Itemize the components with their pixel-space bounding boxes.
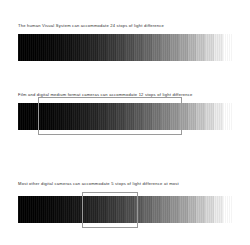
gradient-step bbox=[72, 103, 81, 130]
gradient-step bbox=[98, 196, 107, 223]
gradient-step bbox=[214, 34, 223, 61]
caption-human-visual-system: The human Visual System can accommodate … bbox=[18, 23, 238, 29]
gradient-step bbox=[134, 34, 143, 61]
gradient-step bbox=[170, 103, 179, 130]
gradient-step bbox=[72, 196, 81, 223]
gradient-step bbox=[80, 34, 89, 61]
gradient-step bbox=[196, 196, 205, 223]
gradient-step bbox=[107, 196, 116, 223]
caption-digital-cameras: Most other digital cameras can accommoda… bbox=[18, 181, 238, 187]
gradient-step bbox=[134, 103, 143, 130]
gradient-step bbox=[36, 196, 45, 223]
gradient-step bbox=[107, 34, 116, 61]
page-root: The human Visual System can accommodate … bbox=[0, 0, 250, 245]
gradient-step bbox=[27, 103, 36, 130]
gradient-step bbox=[134, 196, 143, 223]
gradient-step bbox=[54, 103, 63, 130]
caption-film-medium-format: Film and digital medium format cameras c… bbox=[18, 92, 238, 98]
gradient-step bbox=[125, 103, 134, 130]
gradient-step bbox=[63, 34, 72, 61]
gradient-step bbox=[116, 103, 125, 130]
gradient-step bbox=[98, 103, 107, 130]
gradient-step bbox=[36, 103, 45, 130]
gradient-step bbox=[116, 196, 125, 223]
gradient-step bbox=[72, 34, 81, 61]
gradient-step bbox=[196, 34, 205, 61]
gradient-step bbox=[223, 34, 232, 61]
gradient-step bbox=[98, 34, 107, 61]
gradient-bar-digital-cameras bbox=[18, 196, 232, 223]
panel-film-medium-format: Film and digital medium format cameras c… bbox=[0, 85, 250, 160]
gradient-step bbox=[170, 196, 179, 223]
gradient-step bbox=[161, 103, 170, 130]
gradient-step bbox=[179, 103, 188, 130]
gradient-step bbox=[116, 34, 125, 61]
gradient-step bbox=[179, 196, 188, 223]
gradient-step bbox=[188, 34, 197, 61]
gradient-step bbox=[152, 34, 161, 61]
gradient-step bbox=[18, 34, 27, 61]
gradient-step bbox=[188, 196, 197, 223]
gradient-step bbox=[36, 34, 45, 61]
panel-human-visual-system: The human Visual System can accommodate … bbox=[0, 0, 250, 85]
gradient-step bbox=[161, 34, 170, 61]
gradient-step bbox=[188, 103, 197, 130]
gradient-bar-film-medium-format bbox=[18, 103, 232, 130]
gradient-step bbox=[143, 103, 152, 130]
gradient-step bbox=[27, 34, 36, 61]
gradient-step bbox=[80, 103, 89, 130]
gradient-step bbox=[214, 196, 223, 223]
gradient-step bbox=[161, 196, 170, 223]
gradient-step bbox=[205, 34, 214, 61]
gradient-step bbox=[45, 103, 54, 130]
gradient-step bbox=[45, 196, 54, 223]
gradient-step bbox=[125, 196, 134, 223]
gradient-step bbox=[89, 103, 98, 130]
gradient-step bbox=[205, 103, 214, 130]
gradient-step bbox=[89, 196, 98, 223]
gradient-step bbox=[205, 196, 214, 223]
gradient-step bbox=[89, 34, 98, 61]
gradient-step bbox=[179, 34, 188, 61]
gradient-step bbox=[18, 103, 27, 130]
gradient-step bbox=[125, 34, 134, 61]
gradient-step bbox=[54, 34, 63, 61]
gradient-step bbox=[223, 196, 232, 223]
gradient-step bbox=[214, 103, 223, 130]
gradient-bar-human-visual-system bbox=[18, 34, 232, 61]
gradient-step bbox=[196, 103, 205, 130]
gradient-step bbox=[170, 34, 179, 61]
gradient-step bbox=[63, 196, 72, 223]
gradient-step bbox=[107, 103, 116, 130]
gradient-step bbox=[143, 196, 152, 223]
panel-digital-cameras: Most other digital cameras can accommoda… bbox=[0, 160, 250, 245]
gradient-step bbox=[143, 34, 152, 61]
gradient-step bbox=[18, 196, 27, 223]
gradient-step bbox=[152, 103, 161, 130]
gradient-step bbox=[63, 103, 72, 130]
gradient-step bbox=[152, 196, 161, 223]
gradient-step bbox=[223, 103, 232, 130]
gradient-step bbox=[27, 196, 36, 223]
gradient-step bbox=[54, 196, 63, 223]
gradient-step bbox=[80, 196, 89, 223]
gradient-step bbox=[45, 34, 54, 61]
